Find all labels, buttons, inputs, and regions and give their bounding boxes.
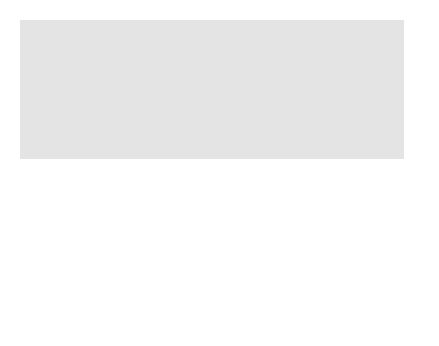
map-background (0, 0, 439, 346)
